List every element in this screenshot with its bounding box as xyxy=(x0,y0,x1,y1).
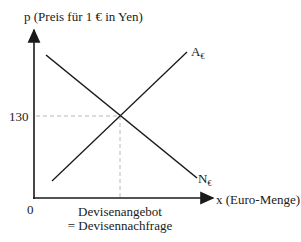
equilibrium-label-line2: = Devisennachfrage xyxy=(65,219,175,232)
price-tick-label: 130 xyxy=(9,110,29,123)
demand-curve-label: N€ xyxy=(198,172,211,185)
y-axis-label: p (Preis für 1 € in Yen) xyxy=(24,10,143,23)
origin-label: 0 xyxy=(27,203,34,216)
demand-curve xyxy=(46,55,197,178)
equilibrium-label-line1: Devisenangebot xyxy=(70,205,170,218)
x-axis-label: x (Euro-Menge) xyxy=(216,193,300,206)
supply-curve-label: A€ xyxy=(191,45,204,58)
